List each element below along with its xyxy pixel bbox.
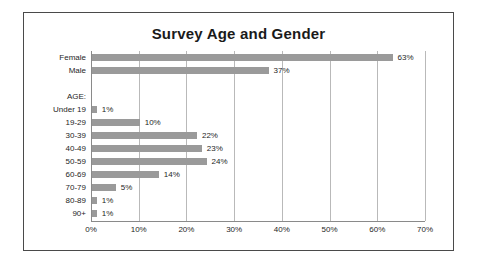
x-tick-label: 20% [178,225,194,234]
bar-row: 80-891% [91,194,425,207]
plot-wrapper: Female63%Male37%AGE:Under 191%19-2910%30… [24,13,455,252]
bar-value-label: 1% [102,207,114,220]
x-axis-line [91,221,425,222]
bar-row: Under 191% [91,103,425,116]
bar-row: Female63% [91,51,425,64]
bar-row: 40-4923% [91,142,425,155]
bar [92,106,97,113]
category-label: Female [59,51,86,64]
bar [92,67,269,74]
bar-value-label: 1% [102,103,114,116]
x-tick-label: 0% [85,225,97,234]
category-label: 30-39 [66,129,86,142]
bar [92,210,97,217]
bar-row: 19-2910% [91,116,425,129]
bar [92,119,140,126]
gridline [425,51,426,221]
x-axis-ticks: 0%10%20%30%40%50%60%70% [91,225,425,241]
bar [92,54,393,61]
bar-row: Male37% [91,64,425,77]
x-tick-label: 70% [417,225,433,234]
category-label: 90+ [72,207,86,220]
bar-value-label: 14% [164,168,180,181]
bar-value-label: 23% [207,142,223,155]
bar [92,132,197,139]
bar-row: AGE: [91,90,425,103]
bar [92,171,159,178]
bar [92,184,116,191]
bar-value-label: 24% [212,155,228,168]
bar [92,197,97,204]
bar-row: 50-5924% [91,155,425,168]
category-label: AGE: [67,90,86,103]
plot-area: Female63%Male37%AGE:Under 191%19-2910%30… [91,51,425,221]
x-tick-label: 30% [226,225,242,234]
category-label: 50-59 [66,155,86,168]
chart-frame: Survey Age and Gender Female63%Male37%AG… [23,12,454,251]
bar-value-label: 63% [398,51,414,64]
category-label: 60-69 [66,168,86,181]
bar-value-label: 37% [274,64,290,77]
category-label: Under 19 [53,103,86,116]
bar-row-spacer [91,77,425,90]
bar-row: 30-3922% [91,129,425,142]
category-label: 40-49 [66,142,86,155]
bar-value-label: 5% [121,181,133,194]
bar [92,158,207,165]
bar-value-label: 1% [102,194,114,207]
x-tick-label: 40% [274,225,290,234]
x-tick-label: 10% [131,225,147,234]
bar [92,145,202,152]
x-tick-label: 60% [369,225,385,234]
category-label: 80-89 [66,194,86,207]
x-tick-label: 50% [322,225,338,234]
bar-row: 70-795% [91,181,425,194]
category-label: Male [69,64,86,77]
category-label: 70-79 [66,181,86,194]
category-label: 19-29 [66,116,86,129]
bar-row: 90+1% [91,207,425,220]
bar-row: 60-6914% [91,168,425,181]
bar-value-label: 22% [202,129,218,142]
bar-value-label: 10% [145,116,161,129]
